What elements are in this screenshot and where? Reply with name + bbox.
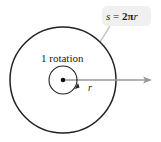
formula-two-pi: 2π <box>122 10 134 22</box>
leader-line <box>100 26 110 42</box>
formula-r: r <box>134 10 139 22</box>
center-point <box>61 78 66 83</box>
radius-label: r <box>88 82 92 93</box>
rotation-label: 1 rotation <box>41 52 84 64</box>
formula-equals: = <box>110 10 122 22</box>
formula-label: s = 2πr <box>106 10 139 22</box>
rotation-diagram: s = 2πr 1 rotation r <box>0 0 161 142</box>
